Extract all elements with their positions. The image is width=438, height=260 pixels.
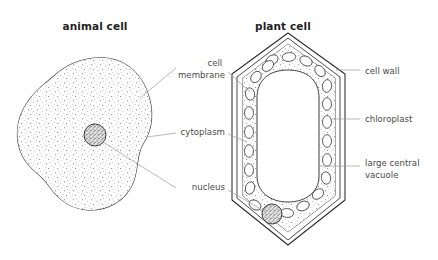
label-cell-membrane-line2: membrane (178, 70, 225, 80)
leader-cytoplasm-animal (147, 133, 176, 137)
label-nucleus: nucleus (192, 182, 226, 192)
cell-comparison-diagram: animal cell plant cell (0, 0, 438, 260)
label-cytoplasm: cytoplasm (181, 127, 225, 137)
plant-cell-group (232, 33, 345, 245)
animal-nucleus (84, 124, 106, 146)
label-vacuole-line1: large central (365, 158, 420, 168)
chloroplast (323, 135, 332, 148)
label-cell-membrane-line1: cell (207, 58, 222, 68)
chloroplast (323, 98, 332, 111)
chloroplast (245, 164, 254, 177)
leader-cell-membrane-animal (140, 68, 176, 98)
panel-title-plant: plant cell (255, 20, 311, 32)
label-vacuole-line2: vacuole (365, 170, 398, 180)
diagram-canvas: animal cell plant cell (0, 0, 438, 260)
chloroplast (245, 126, 254, 139)
label-cell-membrane: cell membrane (178, 58, 225, 80)
plant-large-central-vacuole (257, 70, 319, 202)
chloroplast (245, 145, 254, 158)
chloroplast (323, 154, 332, 167)
label-chloroplast: chloroplast (365, 114, 413, 124)
plant-nucleus (262, 204, 282, 224)
animal-cell-group (10, 50, 160, 220)
panel-title-animal: animal cell (62, 20, 127, 32)
chloroplast (245, 107, 254, 120)
label-cell-wall: cell wall (365, 66, 400, 76)
chloroplast (323, 116, 332, 129)
label-large-central-vacuole: large central vacuole (365, 158, 422, 180)
